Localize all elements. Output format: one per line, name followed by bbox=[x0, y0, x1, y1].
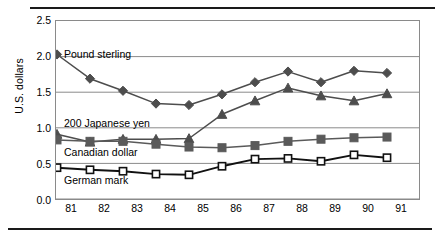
annotation-2: Canadian dollar bbox=[64, 146, 138, 158]
x-tick-85: 85 bbox=[188, 203, 218, 214]
marker-open-square bbox=[86, 166, 93, 173]
marker-square bbox=[350, 134, 358, 142]
marker-open-square bbox=[251, 156, 258, 163]
marker-open-square bbox=[383, 154, 390, 161]
marker-square bbox=[185, 143, 193, 151]
marker-triangle bbox=[250, 96, 260, 105]
x-tick-90: 90 bbox=[353, 203, 383, 214]
x-tick-87: 87 bbox=[254, 203, 284, 214]
y-tick-0.5: 0.5 bbox=[25, 159, 51, 169]
x-tick-86: 86 bbox=[221, 203, 251, 214]
chart-figure: U.S. dollars 2.5 2.0 1.5 1.0 0.5 0.0 81 … bbox=[0, 0, 440, 244]
marker-diamond bbox=[316, 78, 325, 87]
marker-open-square bbox=[56, 164, 61, 171]
y-tick-1.0: 1.0 bbox=[25, 123, 51, 133]
bottom-rule bbox=[8, 228, 432, 230]
marker-diamond bbox=[250, 78, 259, 87]
marker-square bbox=[86, 137, 94, 145]
x-tick-83: 83 bbox=[122, 203, 152, 214]
marker-open-square bbox=[317, 158, 324, 165]
marker-square bbox=[383, 133, 391, 141]
x-tick-88: 88 bbox=[287, 203, 317, 214]
y-tick-0.0: 0.0 bbox=[25, 195, 51, 205]
y-tick-1.5: 1.5 bbox=[25, 87, 51, 97]
marker-open-square bbox=[152, 170, 159, 177]
plot-area: Pound sterling200 Japanese yenCanadian d… bbox=[55, 20, 420, 200]
marker-square bbox=[152, 140, 160, 148]
marker-diamond bbox=[283, 67, 292, 76]
marker-diamond bbox=[349, 66, 358, 75]
x-tick-91: 91 bbox=[386, 203, 416, 214]
marker-open-square bbox=[284, 155, 291, 162]
top-rule bbox=[30, 7, 435, 9]
marker-open-square bbox=[350, 151, 357, 158]
x-tick-84: 84 bbox=[155, 203, 185, 214]
chart-canvas: Pound sterling200 Japanese yenCanadian d… bbox=[56, 21, 419, 199]
marker-triangle bbox=[283, 83, 293, 92]
marker-diamond bbox=[151, 99, 160, 108]
marker-square bbox=[317, 135, 325, 143]
marker-square bbox=[56, 136, 61, 144]
annotation-1: 200 Japanese yen bbox=[64, 117, 150, 129]
marker-open-square bbox=[218, 163, 225, 170]
marker-square bbox=[284, 137, 292, 145]
marker-square bbox=[251, 142, 259, 150]
annotation-3: German mark bbox=[64, 174, 129, 186]
marker-square bbox=[218, 144, 226, 152]
y-tick-2.0: 2.0 bbox=[25, 51, 51, 61]
y-tick-2.5: 2.5 bbox=[25, 15, 51, 25]
y-axis-ticks: 2.5 2.0 1.5 1.0 0.5 0.0 bbox=[21, 0, 51, 244]
marker-open-square bbox=[185, 171, 192, 178]
marker-diamond bbox=[217, 90, 226, 99]
x-tick-89: 89 bbox=[320, 203, 350, 214]
x-tick-81: 81 bbox=[56, 203, 86, 214]
marker-diamond bbox=[118, 86, 127, 95]
marker-diamond bbox=[184, 100, 193, 109]
annotation-0: Pound sterling bbox=[64, 48, 131, 60]
x-tick-82: 82 bbox=[89, 203, 119, 214]
marker-square bbox=[119, 137, 127, 145]
marker-diamond bbox=[382, 68, 391, 77]
marker-triangle bbox=[382, 89, 392, 98]
marker-triangle bbox=[217, 109, 227, 118]
